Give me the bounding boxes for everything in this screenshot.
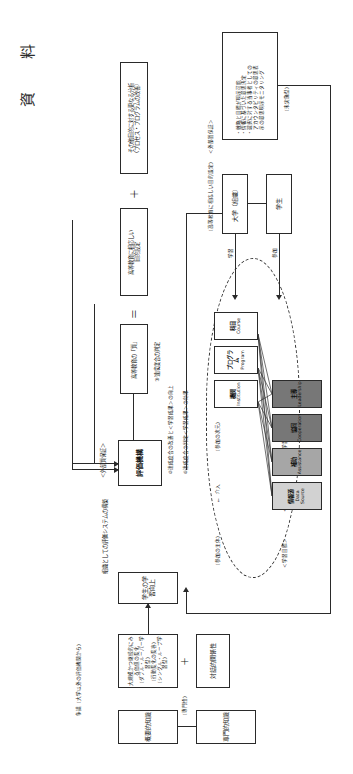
- connector-eval-up-b: [72, 463, 118, 464]
- feedback-line-left: [186, 613, 331, 614]
- oval-bottom-box-1: 協同 Cooperation: [272, 414, 322, 442]
- oval-top-box-2-en: Course: [236, 318, 242, 334]
- diagram-canvas: 資 料 その他目的に対する更なる分析 （プロセス・プログラムの改善） ＋ 高等教…: [0, 0, 353, 774]
- oval-bottom-box-3-en: Data Source: [295, 484, 306, 508]
- connector-student-to-oval: [279, 234, 280, 296]
- label-participation-arrow: 参加: [272, 248, 278, 258]
- connector-university-student: [248, 203, 266, 204]
- label-intervene-arrow: ←: [216, 498, 222, 502]
- box-competency: 概要的知識: [118, 710, 178, 744]
- oval-bottom-box-1-en: Cooperation: [297, 414, 303, 442]
- box-outcome-list: ・戦略と目標が明示可能 ・情報に基づいた意思決定 ・選択に対する当事者としての …: [222, 32, 278, 140]
- rotated-page-wrapper: 資 料 その他目的に対する更なる分析 （プロセス・プログラムの改善） ＋ 高等教…: [0, 0, 353, 774]
- box-other-purposes: その他目的に対する更なる分析 （プロセス・プログラムの改善）: [120, 62, 148, 174]
- box-quality-determination: 高等教育の「質」: [120, 324, 148, 394]
- box-university: 大学（組織）: [222, 174, 248, 234]
- oval-top-box-0: 機関 Institution: [214, 380, 258, 408]
- label-improve-note: ②達成度合の改善と＜学習成果＞の向上: [168, 385, 174, 474]
- arrowhead-eval-down-b: [114, 461, 119, 467]
- label-list-box-note: （未実施型）: [284, 84, 290, 114]
- connector-eval-up-a-h: [72, 220, 73, 470]
- connector-eval-up-b-h: [94, 304, 95, 464]
- plus-sign-outcomes: ＋: [178, 657, 191, 666]
- oval-bottom-box-2: 補助 Assistance: [272, 448, 322, 476]
- equals-sign: ＝: [126, 309, 141, 319]
- secondary-loop-right: [186, 213, 222, 214]
- label-intervene: 介入: [215, 484, 221, 494]
- label-measure-quality: ③達成度合の判定: [154, 342, 161, 382]
- arrowhead-feedback: [183, 587, 189, 592]
- connector-university-to-oval: [235, 234, 236, 296]
- box-student-learning: 学生の学習向上: [118, 572, 178, 604]
- oval-top-box-2: 科目 Course: [214, 312, 258, 340]
- label-organization-construction: 組織としての評価システムの構築: [102, 499, 109, 574]
- label-subject-level: （参加の次元）: [215, 419, 221, 454]
- oval-bottom-box-3: 情報源 Data Source: [272, 482, 322, 510]
- page-title: 資 料: [16, 35, 37, 107]
- label-external-quality-assurance-top: ＜外部質保証＞: [100, 443, 107, 478]
- oval-top-box-1: プログラム Program: [214, 346, 258, 374]
- connector-competency-expertise: [178, 726, 196, 727]
- box-evaluation-organization: 評価機構: [118, 440, 162, 486]
- arrowhead-eval-down-a: [114, 467, 119, 473]
- feedback-line-bottom: [330, 86, 331, 614]
- box-student: 学生: [266, 174, 292, 234]
- oval-bottom-box-2-en: Assistance: [297, 450, 303, 474]
- label-internal-purpose: （高等教育に相応しい目的設定）: [208, 159, 214, 234]
- box-interactivity: 対話的関係性: [196, 634, 230, 688]
- secondary-loop-top: [186, 214, 187, 470]
- arrowhead-university-left: [232, 295, 238, 300]
- crossing-connectors: [258, 310, 272, 474]
- oval-top-box-1-en: Program: [240, 348, 246, 372]
- plus-sign-top: ＋: [126, 189, 141, 199]
- box-value-add: 大規模かつ継続的にみる価値の変化 （ダブル・ルーパー学習型） （行動変化の変容）…: [118, 634, 178, 688]
- box-expertise-field: 専門的知識: [196, 710, 256, 744]
- label-subject-actor: （参加の主体）: [215, 533, 221, 568]
- label-external-quality-assurance-bottom: ＜外部質保証＞: [208, 119, 214, 154]
- label-learning-goal: ＜学習目標＞: [282, 538, 288, 568]
- label-expertise-note: （専門性）: [182, 693, 188, 718]
- box-target-setting: 高等教育に相応しい 目的設定: [120, 208, 148, 296]
- feedback-line-top: [186, 590, 187, 614]
- oval-top-box-0-en: Institution: [236, 382, 242, 405]
- arrowhead-student-left: [276, 295, 282, 300]
- oval-top-box-1-jp: プログラム: [227, 348, 240, 372]
- feedback-line-right: [278, 85, 331, 86]
- connector-eval-up-a: [72, 469, 118, 470]
- oval-bottom-box-0-en: Leadership: [297, 381, 303, 406]
- label-learning-arrow: 学習: [228, 248, 234, 258]
- label-evaluation-source: 争議（大学以外の評価機関から）: [76, 641, 82, 716]
- connector-valueadd-to-student: [148, 604, 149, 634]
- oval-bottom-box-0: 主導 Leadership: [272, 380, 322, 408]
- arrowhead-to-student-learning: [145, 603, 151, 608]
